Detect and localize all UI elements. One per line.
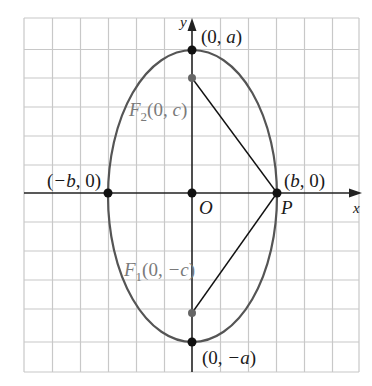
y-axis-arrow-icon — [188, 18, 197, 31]
label-origin: O — [199, 197, 213, 218]
label-point-p: P — [280, 197, 293, 218]
point-bottom-vertex — [188, 338, 197, 347]
label-left-vertex: (−b, 0) — [47, 170, 101, 192]
label-right-vertex: (b, 0) — [284, 170, 325, 192]
x-axis-label: x — [352, 200, 360, 216]
point-focus-f2 — [188, 74, 196, 82]
label-top-vertex: (0, a) — [201, 26, 242, 48]
point-focus-f1 — [188, 309, 196, 317]
y-axis-label: y — [178, 14, 187, 30]
x-axis-arrow-icon — [349, 189, 362, 198]
point-left-vertex — [104, 189, 113, 198]
ellipse-diagram: y x (0, a) (0, −a) (−b, 0) (b, 0) O P F2… — [0, 0, 372, 386]
point-top-vertex — [188, 46, 197, 55]
point-origin — [188, 189, 197, 198]
label-bottom-vertex: (0, −a) — [202, 347, 256, 369]
